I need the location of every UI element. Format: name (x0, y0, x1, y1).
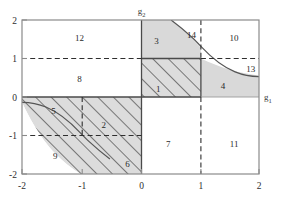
figure-container: -2 -1 0 1 2 2 1 0 -1 -2 g2 g1 1 2 3 4 5 … (0, 0, 283, 201)
x-tick-label: 1 (199, 181, 204, 191)
region-label: 8 (77, 74, 82, 84)
region-label: 5 (51, 106, 56, 116)
x-tick-label: -2 (18, 181, 26, 191)
region-label: 2 (102, 120, 107, 130)
x-axis-label: g1 (264, 92, 272, 104)
region-label: 12 (75, 33, 84, 43)
region-label: 10 (230, 33, 240, 43)
y-axis-label-sub: 2 (142, 11, 145, 18)
region-1-hatch (142, 59, 201, 98)
region-label: 13 (246, 64, 256, 74)
y-tick-label: -1 (9, 131, 17, 141)
x-tick-label: -1 (78, 181, 86, 191)
region-label: 3 (154, 36, 159, 46)
region-label: 1 (156, 84, 161, 94)
y-tick-label: 0 (12, 93, 17, 103)
region-label: 7 (166, 139, 171, 149)
y-tick-label: 2 (12, 16, 17, 26)
y-tick-label: -2 (9, 170, 17, 180)
region-label: 9 (53, 151, 58, 161)
y-axis-label: g2 (138, 6, 146, 18)
y-tick-label: 1 (12, 54, 17, 64)
region-label: 11 (230, 139, 239, 149)
region-label: 4 (221, 81, 226, 91)
x-tick-labels: -2 -1 0 1 2 (18, 181, 262, 191)
region-label: 14 (187, 30, 197, 40)
region-diagram: -2 -1 0 1 2 2 1 0 -1 -2 g2 g1 1 2 3 4 5 … (0, 0, 283, 201)
x-axis-label-sub: 1 (269, 97, 272, 104)
x-tick-label: 2 (257, 181, 262, 191)
region-label: 6 (125, 159, 130, 169)
x-tick-label: 0 (139, 181, 144, 191)
y-tick-labels: 2 1 0 -1 -2 (9, 16, 17, 180)
